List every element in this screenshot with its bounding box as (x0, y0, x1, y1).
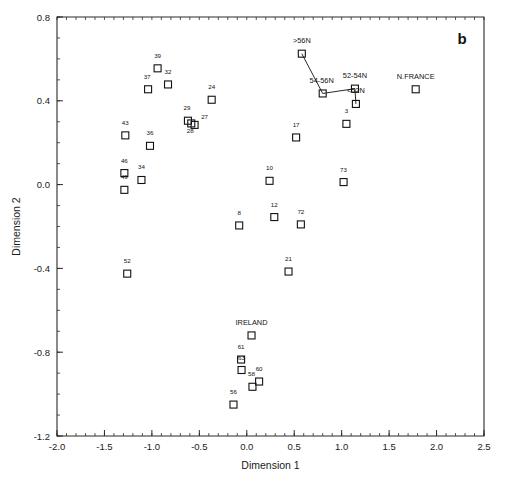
point-marker[interactable] (412, 86, 419, 93)
point-label: 39 (154, 52, 161, 59)
x-axis-title: Dimension 1 (241, 459, 300, 471)
point-label: 61 (238, 343, 245, 350)
point-label: 21 (285, 255, 292, 262)
point-label: 10 (266, 164, 273, 171)
data-point[interactable]: 3 (343, 107, 350, 127)
point-marker[interactable] (208, 96, 215, 103)
data-point[interactable]: 32 (165, 68, 172, 88)
point-label: 12 (271, 201, 278, 208)
point-label: 43 (122, 119, 129, 126)
data-point[interactable]: 49 (121, 173, 128, 193)
data-point[interactable]: 52 (124, 257, 131, 277)
point-label: 54-56N (310, 76, 334, 85)
data-point[interactable]: 39 (154, 52, 161, 72)
point-marker[interactable] (249, 383, 256, 390)
point-label: 36 (147, 129, 154, 136)
point-label: 8 (237, 209, 241, 216)
data-point[interactable]: 54-56N (310, 76, 334, 97)
point-label: 27 (201, 113, 208, 120)
point-marker[interactable] (165, 81, 172, 88)
panel-label: b (457, 30, 466, 47)
x-tick-label: 1.5 (383, 441, 396, 452)
x-tick-label: -2.0 (49, 441, 65, 452)
y-tick-label: 0.0 (37, 179, 50, 190)
y-tick-label: 0.8 (37, 12, 50, 23)
point-marker[interactable] (271, 214, 278, 221)
x-tick-label: 1.0 (335, 441, 348, 452)
point-marker[interactable] (340, 179, 347, 186)
scatter-plot-figure: -2.0-1.5-1.0-0.50.00.51.01.52.02.5-1.2-0… (0, 0, 516, 486)
point-label: 34 (138, 163, 145, 170)
x-tick-label: 2.5 (477, 441, 490, 452)
x-tick-label: 0.5 (288, 441, 301, 452)
data-point[interactable]: 34 (138, 163, 145, 183)
y-axis-title: Dimension 2 (10, 197, 22, 256)
point-marker[interactable] (154, 65, 161, 72)
data-point[interactable]: 60 (256, 365, 263, 385)
data-point[interactable]: 10 (266, 164, 273, 184)
point-marker[interactable] (230, 401, 237, 408)
data-point[interactable]: 12 (271, 201, 278, 221)
point-marker[interactable] (293, 134, 300, 141)
point-marker[interactable] (297, 221, 304, 228)
point-label: 46 (121, 157, 128, 164)
point-marker[interactable] (124, 270, 131, 277)
point-label: 28 (187, 127, 194, 134)
point-label: N.FRANCE (397, 72, 435, 81)
x-tick-label: -1.0 (144, 441, 160, 452)
y-tick-label: 0.4 (37, 95, 50, 106)
point-marker[interactable] (266, 177, 273, 184)
point-label: 73 (340, 166, 347, 173)
point-label: 37 (144, 73, 151, 80)
point-marker[interactable] (343, 120, 350, 127)
y-tick-label: -1.2 (34, 431, 50, 442)
point-label: 60 (256, 365, 263, 372)
point-marker[interactable] (145, 86, 152, 93)
point-label: 52 (124, 257, 131, 264)
point-label: 52-54N (343, 71, 367, 80)
point-label: 29 (184, 104, 191, 111)
data-point[interactable]: N.FRANCE (397, 72, 435, 93)
point-marker[interactable] (138, 176, 145, 183)
data-point[interactable]: 24 (208, 83, 215, 103)
point-marker[interactable] (122, 132, 129, 139)
point-marker[interactable] (146, 142, 153, 149)
point-label: 49 (121, 173, 128, 180)
point-marker[interactable] (238, 367, 245, 374)
x-tick-label: 2.0 (430, 441, 443, 452)
point-marker[interactable] (121, 186, 128, 193)
point-marker[interactable] (236, 222, 243, 229)
data-point[interactable]: 17 (293, 121, 300, 141)
data-point[interactable]: 36 (146, 129, 153, 149)
point-label: 63 (238, 354, 245, 361)
data-point[interactable]: 72 (297, 208, 304, 228)
point-label: 3 (345, 107, 349, 114)
point-marker[interactable] (285, 268, 292, 275)
data-point[interactable]: 73 (340, 166, 347, 186)
data-point[interactable]: 58 (248, 370, 256, 390)
x-tick-label: 0.0 (240, 441, 253, 452)
y-tick-label: -0.4 (34, 263, 50, 274)
data-point[interactable]: 43 (122, 119, 129, 139)
x-tick-label: -1.5 (96, 441, 112, 452)
point-label: 17 (293, 121, 300, 128)
point-label: <52N (347, 86, 365, 95)
x-tick-label: -0.5 (191, 441, 207, 452)
point-label: IRELAND (235, 318, 267, 327)
point-label: 32 (165, 68, 172, 75)
data-point[interactable]: IRELAND (235, 318, 267, 339)
data-point[interactable]: 21 (285, 255, 292, 275)
plot-canvas: -2.0-1.5-1.0-0.50.00.51.01.52.02.5-1.2-0… (0, 0, 516, 486)
point-marker[interactable] (256, 378, 263, 385)
data-point[interactable]: 8 (236, 209, 243, 229)
point-label: 72 (297, 208, 304, 215)
point-marker[interactable] (248, 332, 255, 339)
point-label: 24 (208, 83, 215, 90)
point-label: 56 (230, 388, 237, 395)
y-tick-label: -0.8 (34, 347, 50, 358)
data-point[interactable]: 56 (230, 388, 237, 408)
point-label: >56N (293, 36, 311, 45)
point-label: 58 (248, 370, 255, 377)
data-point[interactable]: 37 (144, 73, 152, 93)
